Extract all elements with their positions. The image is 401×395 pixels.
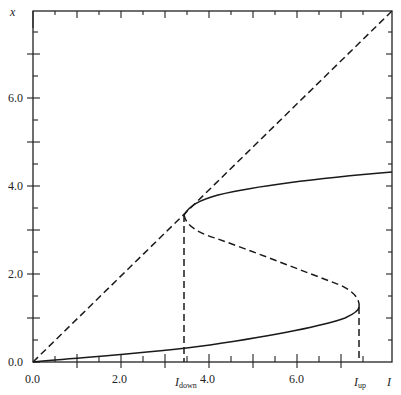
x-axis-label: I (386, 375, 392, 389)
right-axis-ticks (386, 32, 392, 340)
y-axis-label: x (9, 5, 16, 19)
y-tick-label: 6.0 (8, 91, 23, 105)
upper-stable-branch (184, 172, 392, 215)
i-up-label: Iup (353, 375, 366, 390)
y-tick-label: 4.0 (8, 179, 23, 193)
bifurcation-chart: 0.0 2.0 4.0 6.0 0.0 2.0 4.0 6.0 Idown Iu… (0, 0, 401, 395)
i-down-label: Idown (174, 375, 197, 390)
middle-unstable-branch (184, 215, 359, 307)
diagonal-line (33, 11, 392, 362)
x-tick-label: 0.0 (25, 372, 40, 386)
x-tick-label: 6.0 (289, 372, 304, 386)
lower-stable-branch (33, 307, 359, 362)
x-tick-label: 2.0 (112, 372, 127, 386)
plot-frame (33, 11, 392, 362)
top-axis-ticks (55, 11, 363, 18)
x-tick-label: 4.0 (200, 372, 215, 386)
y-tick-label: 2.0 (8, 267, 23, 281)
y-tick-label: 0.0 (8, 355, 23, 369)
